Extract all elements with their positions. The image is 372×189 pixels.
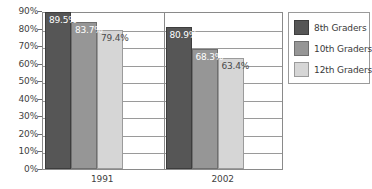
bar: 83.7% <box>71 22 97 169</box>
legend-item-label: 8th Graders <box>314 23 367 33</box>
legend-swatch-icon <box>294 20 309 35</box>
y-axis-tick: 30% <box>0 112 38 121</box>
bar: 89.5% <box>45 12 71 169</box>
legend-item-label: 12th Graders <box>314 65 372 75</box>
y-axis-tick: 90% <box>0 7 38 16</box>
y-axis-tick-label: 90% <box>0 7 38 16</box>
y-axis-tick-label: 80% <box>0 25 38 34</box>
y-axis-tick-label: 60% <box>0 60 38 69</box>
bar-value-label: 83.7% <box>75 25 103 35</box>
bar-value-label: 63.4% <box>222 61 250 71</box>
bar: 63.4% <box>218 58 244 169</box>
y-axis-tick: 50% <box>0 77 38 86</box>
legend-item[interactable]: 8th Graders <box>293 17 365 38</box>
legend-item-label: 10th Graders <box>314 44 372 54</box>
legend-item[interactable]: 12th Graders <box>293 59 365 80</box>
plot-area: 89.5%83.7%79.4%80.9%68.3%63.4% <box>42 12 283 170</box>
y-axis-tick-label: 10% <box>0 147 38 156</box>
y-axis-tick: 60% <box>0 60 38 69</box>
legend-swatch-icon <box>294 41 309 56</box>
y-axis-tick-label: 50% <box>0 77 38 86</box>
bar: 80.9% <box>166 27 192 169</box>
chart-legend: 8th Graders10th Graders12th Graders <box>288 12 370 84</box>
y-axis-tick: 0% <box>0 165 38 174</box>
x-axis-category-label: 1991 <box>42 174 163 184</box>
y-axis-tick: 10% <box>0 147 38 156</box>
y-axis-tick-label: 30% <box>0 112 38 121</box>
y-axis: 90%80%70%60%50%40%30%20%10%0% <box>0 0 38 189</box>
y-axis-tick-label: 20% <box>0 130 38 139</box>
y-axis-tick: 20% <box>0 130 38 139</box>
group-divider <box>164 13 165 169</box>
legend-swatch-icon <box>294 62 309 77</box>
bar-value-label: 68.3% <box>196 52 224 62</box>
y-axis-tick: 40% <box>0 95 38 104</box>
bar-chart: 90%80%70%60%50%40%30%20%10%0% 89.5%83.7%… <box>0 0 372 189</box>
y-axis-tick: 80% <box>0 25 38 34</box>
y-axis-tick-label: 40% <box>0 95 38 104</box>
y-axis-tick-label: 0% <box>0 165 38 174</box>
x-axis-category-label: 2002 <box>163 174 284 184</box>
bar: 68.3% <box>192 49 218 169</box>
y-axis-tick-label: 70% <box>0 42 38 51</box>
y-axis-tick: 70% <box>0 42 38 51</box>
bar-value-label: 80.9% <box>170 30 198 40</box>
bar-value-label: 89.5% <box>49 15 77 25</box>
bar: 79.4% <box>97 30 123 169</box>
bar-value-label: 79.4% <box>101 33 129 43</box>
legend-item[interactable]: 10th Graders <box>293 38 365 59</box>
